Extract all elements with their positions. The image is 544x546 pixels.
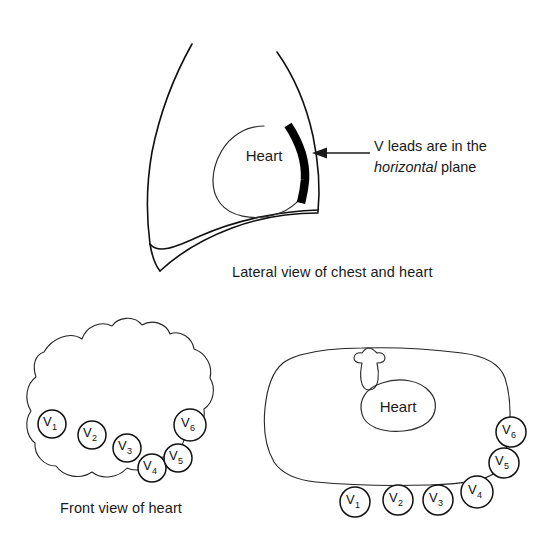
annotation-emphasis: horizontal: [374, 159, 437, 175]
electrode-v4[interactable]: V4: [461, 476, 493, 508]
electrode-subscript: 2: [398, 498, 403, 508]
thorax-cross-section-outline: [264, 348, 510, 486]
lateral-chest-panel: Heart: [147, 44, 370, 271]
electrode-subscript: 1: [355, 500, 360, 510]
electrode-subscript: 6: [190, 423, 195, 433]
lateral-anterior-chest-outline: [147, 44, 192, 271]
electrode-subscript: 6: [511, 430, 516, 440]
electrode-subscript: 2: [92, 433, 97, 443]
electrode-v6[interactable]: V6: [174, 409, 206, 441]
electrode-v1[interactable]: V1: [38, 410, 66, 438]
electrode-subscript: 4: [477, 490, 482, 500]
electrode-v6[interactable]: V6: [496, 417, 526, 447]
cross-section-electrode-group: V1V2V3V4V5V6: [340, 417, 526, 517]
lateral-chest-base-outline: [150, 210, 318, 249]
cross-section-panel: Heart: [264, 348, 510, 486]
electrode-subscript: 1: [52, 422, 57, 432]
electrode-subscript: 5: [504, 461, 509, 471]
electrode-subscript: 3: [127, 446, 132, 456]
caption-lateral-view: Lateral view of chest and heart: [232, 264, 433, 280]
annotation-line-2: plane: [437, 159, 477, 175]
precordial-lead-band: [288, 125, 305, 203]
ecg-lead-placement-figure: Heart Heart V1V2V3V4V5V6 V1V2V3V4V5V6 V …: [0, 0, 544, 546]
electrode-subscript: 4: [152, 466, 157, 476]
annotation-line-1: V leads are in the: [374, 138, 487, 154]
electrode-subscript: 3: [438, 498, 443, 508]
annotation-arrow-head: [312, 148, 327, 159]
electrode-v5[interactable]: V5: [164, 444, 192, 472]
lateral-posterior-chest-outline: [277, 52, 319, 212]
electrode-v3[interactable]: V3: [423, 485, 453, 515]
electrode-v4[interactable]: V4: [138, 454, 166, 482]
electrode-v3[interactable]: V3: [113, 434, 141, 462]
electrode-v1[interactable]: V1: [340, 487, 370, 517]
electrode-v2[interactable]: V2: [78, 421, 106, 449]
caption-front-view: Front view of heart: [60, 500, 182, 516]
v-leads-annotation: V leads are in the horizontal plane: [374, 136, 544, 178]
electrode-subscript: 5: [178, 456, 183, 466]
cross-section-heart-label: Heart: [380, 398, 418, 415]
electrode-v5[interactable]: V5: [489, 448, 519, 478]
electrode-v2[interactable]: V2: [383, 485, 413, 515]
front-view-electrode-group: V1V2V3V4V5V6: [38, 409, 206, 482]
lateral-heart-label: Heart: [246, 147, 284, 164]
